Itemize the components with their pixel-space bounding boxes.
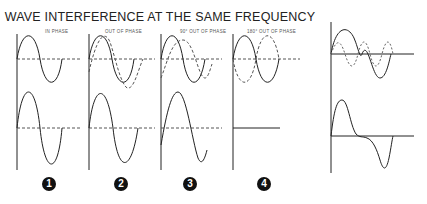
panel-number-2: 2 <box>114 177 128 191</box>
panel-number-1: 1 <box>42 177 56 191</box>
wave-diagram <box>0 0 427 204</box>
panel-number-3: 3 <box>183 177 197 191</box>
panel-90-out-of-phase <box>161 34 222 170</box>
panel-number-4: 4 <box>257 177 271 191</box>
panel-in-phase <box>17 34 80 170</box>
side-panel-wave-sum <box>331 22 414 173</box>
panel-out-of-phase <box>89 34 155 170</box>
panel-180-out-of-phase <box>233 34 300 170</box>
